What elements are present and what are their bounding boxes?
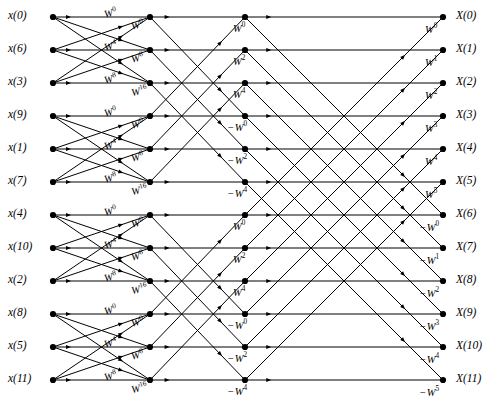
input-label-4: x(1): [8, 141, 27, 153]
stage2-twiddle-0: W0: [233, 21, 245, 34]
node: [242, 113, 248, 119]
node: [50, 311, 56, 317]
arrowhead: [66, 48, 71, 52]
stage3-twiddle-4: W4: [425, 154, 437, 167]
stage2-twiddle-11: − W4: [228, 384, 247, 397]
output-label-11: X(11): [456, 372, 481, 384]
node: [50, 212, 56, 218]
node: [147, 344, 153, 350]
arrowhead: [266, 48, 271, 52]
stage3-twiddle-10: − W4: [420, 352, 439, 365]
node: [440, 113, 446, 119]
node: [50, 14, 56, 20]
arrowhead: [66, 246, 71, 250]
arrowhead: [118, 268, 123, 272]
node: [440, 311, 446, 317]
edge-group: [53, 15, 443, 382]
node: [440, 47, 446, 53]
node: [440, 80, 446, 86]
arrowhead: [66, 147, 71, 151]
arrowhead: [118, 224, 123, 228]
output-label-8: X(8): [456, 273, 476, 285]
arrowhead: [66, 213, 71, 217]
node: [242, 146, 248, 152]
input-label-11: x(11): [8, 372, 31, 384]
stage3-twiddle-7: − W1: [420, 253, 439, 266]
arrowhead: [66, 180, 71, 184]
arrowhead: [165, 180, 170, 184]
arrowhead: [118, 125, 123, 129]
output-label-7: X(7): [456, 240, 476, 252]
input-label-5: x(7): [8, 174, 27, 186]
node: [147, 14, 153, 20]
arrowhead: [66, 81, 71, 85]
arrowhead: [66, 15, 71, 19]
arrowhead: [266, 312, 271, 316]
stage2-twiddle-4: − W2: [228, 153, 247, 166]
arrowhead: [165, 345, 170, 349]
node: [440, 278, 446, 284]
node: [440, 146, 446, 152]
arrowhead: [66, 312, 71, 316]
input-label-3: x(9): [8, 108, 27, 120]
input-label-0: x(0): [8, 9, 27, 21]
arrowhead: [118, 70, 123, 74]
arrowhead: [118, 169, 123, 173]
output-label-1: X(1): [456, 42, 476, 54]
input-label-6: x(4): [8, 207, 27, 219]
stage2-twiddle-10: − W2: [228, 351, 247, 364]
arrowhead: [118, 323, 123, 327]
output-label-2: X(2): [456, 75, 476, 87]
stage3-twiddle-5: W5: [425, 187, 437, 200]
stage3-twiddle-2: W2: [425, 88, 437, 101]
node: [440, 212, 446, 218]
arrowhead: [66, 345, 71, 349]
output-label-3: X(3): [456, 108, 476, 120]
node: [147, 278, 153, 284]
arrowhead: [165, 213, 170, 217]
node: [147, 311, 153, 317]
stage3-twiddle-3: W3: [425, 121, 437, 134]
node: [147, 377, 153, 383]
node: [50, 179, 56, 185]
node: [50, 245, 56, 251]
node: [50, 278, 56, 284]
node: [147, 245, 153, 251]
arrowhead: [165, 378, 170, 382]
input-label-2: x(3): [8, 75, 27, 87]
arrowhead: [165, 147, 170, 151]
output-label-5: X(5): [456, 174, 476, 186]
stage3-twiddle-0: W0: [425, 22, 437, 35]
node: [242, 212, 248, 218]
arrowhead: [266, 246, 271, 250]
arrowhead: [266, 114, 271, 118]
stage2-twiddle-5: − W4: [228, 186, 247, 199]
arrowhead: [266, 147, 271, 151]
node: [147, 47, 153, 53]
arrowhead: [266, 15, 271, 19]
node: [50, 80, 56, 86]
arrowhead: [165, 81, 170, 85]
arrowhead: [165, 48, 170, 52]
node: [242, 14, 248, 20]
stage3-twiddle-11: − W5: [420, 385, 439, 398]
fft-flow-graph: x(0)x(6)x(3)x(9)x(1)x(7)x(4)x(10)x(2)x(8…: [0, 0, 496, 406]
stage2-twiddle-3: − W0: [228, 120, 247, 133]
node: [147, 113, 153, 119]
node: [440, 14, 446, 20]
arrowhead: [266, 180, 271, 184]
stage2-twiddle-9: − W0: [228, 318, 247, 331]
node: [147, 179, 153, 185]
output-label-4: X(4): [456, 141, 476, 153]
arrowhead: [165, 114, 170, 118]
arrowhead: [266, 81, 271, 85]
node: [50, 146, 56, 152]
node: [242, 47, 248, 53]
input-label-7: x(10): [8, 240, 32, 252]
arrowhead: [266, 213, 271, 217]
node: [242, 377, 248, 383]
arrowhead: [66, 114, 71, 118]
arrowhead: [266, 279, 271, 283]
stage3-twiddle-9: − W3: [420, 319, 439, 332]
node: [440, 245, 446, 251]
